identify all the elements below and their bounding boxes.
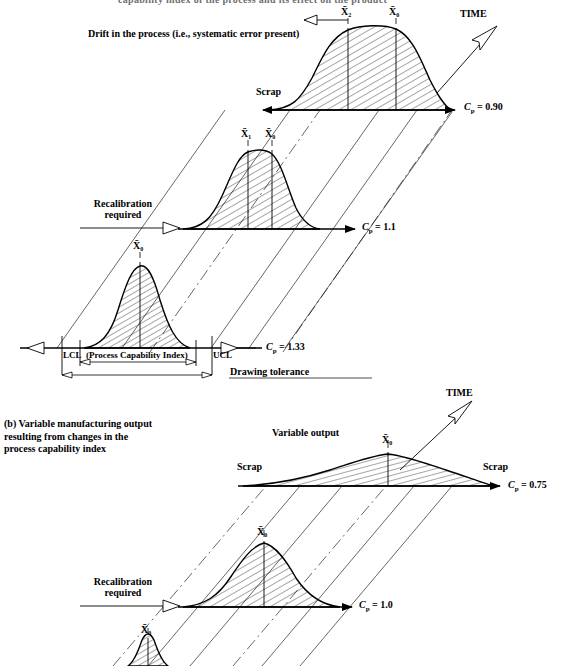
mean-label-x0-b2: X̄₀: [257, 526, 267, 537]
distribution-cp-11: [178, 140, 356, 233]
recalibration-label-panel-b: Recalibrationrequired: [81, 576, 165, 598]
scrap-label-right-panel-b: Scrap: [483, 461, 508, 472]
cp-label-133: Cp = 1.33: [266, 341, 305, 355]
variable-output-label: Variable output: [272, 427, 339, 438]
recalibration-arrow-panel-a: [80, 222, 180, 234]
lcl-label: LCL: [63, 350, 82, 360]
drift-note-label: Drift in the process (i.e., systematic e…: [88, 28, 299, 39]
mean-label-x0-b3: X̄₀: [141, 624, 151, 635]
cp-label-11: Cp = 1.1: [362, 221, 396, 235]
recalibration-arrow-panel-b: [80, 600, 180, 612]
drawing-tolerance-label: Drawing tolerance: [230, 366, 309, 377]
ucl-label: UCL: [213, 350, 232, 360]
caption-panel-b: (b) Variable manufacturing output result…: [4, 418, 214, 456]
distribution-cp-133: [20, 252, 262, 354]
diagram-svg: [0, 0, 565, 666]
scrap-label-top: Scrap: [256, 86, 281, 97]
scrap-label-left-panel-b: Scrap: [237, 461, 262, 472]
mean-label-x0-mid: X̄₀: [265, 128, 275, 139]
cp-label-10: Cp = 1.0: [359, 599, 393, 613]
time-label-panel-b: TIME: [446, 387, 473, 398]
pci-label: (Process Capability Index): [86, 350, 188, 360]
mean-label-x0-bottom: X̄₀: [133, 240, 143, 251]
distribution-cp-10: [178, 530, 353, 611]
mean-label-x0-top: X̄₀: [389, 6, 399, 17]
mean-label-x0-b1: X̄₀: [382, 434, 392, 445]
mean-label-x2: X̄₂: [341, 6, 351, 17]
mean-label-x1: X̄₁: [241, 128, 251, 139]
time-arrow-panel-a: [437, 26, 497, 93]
cp-label-090: Cp = 0.90: [464, 101, 503, 115]
distribution-cp-075: [238, 440, 501, 490]
time-label-panel-a: TIME: [460, 8, 487, 19]
cp-label-075: Cp = 0.75: [508, 479, 547, 493]
figure-canvas: capability index of the process and its …: [0, 0, 565, 666]
recalibration-label-panel-a: Recalibrationrequired: [81, 198, 165, 220]
